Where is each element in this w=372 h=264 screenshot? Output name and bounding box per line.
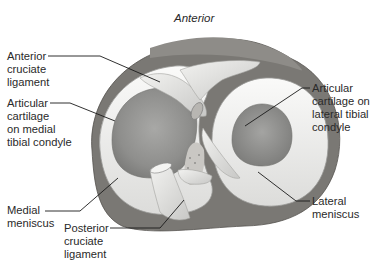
lateral-meniscus (212, 78, 328, 206)
label-anterior-cruciate-ligament: Anterior cruciate ligament (7, 50, 49, 89)
label-lateral-articular-cartilage: Articular cartilage on lateral tibial co… (312, 82, 370, 134)
label-lateral-meniscus: Lateral meniscus (312, 195, 359, 221)
label-medial-meniscus: Medial meniscus (7, 204, 54, 230)
orientation-label-anterior: Anterior (174, 12, 214, 24)
lateral-cartilage (232, 104, 292, 166)
label-posterior-cruciate-ligament: Posterior cruciate ligament (64, 222, 109, 261)
label-medial-articular-cartilage: Articular cartilage on medial tibial con… (7, 97, 72, 149)
